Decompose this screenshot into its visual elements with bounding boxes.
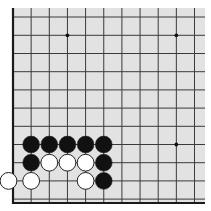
black-stone [23, 154, 40, 171]
go-board [0, 0, 211, 211]
white-stone [59, 154, 76, 171]
black-stone [95, 173, 112, 190]
black-stone [41, 136, 58, 153]
white-stone [41, 154, 58, 171]
black-stone [23, 136, 40, 153]
star-point [174, 143, 178, 147]
black-stone [77, 136, 94, 153]
black-stone [95, 154, 112, 171]
black-stone [95, 136, 112, 153]
white-stone [77, 154, 94, 171]
star-point [174, 33, 178, 37]
white-stone [77, 173, 94, 190]
white-stone [0, 173, 17, 190]
white-stone [23, 173, 40, 190]
black-stone [59, 136, 76, 153]
star-point [66, 33, 70, 37]
